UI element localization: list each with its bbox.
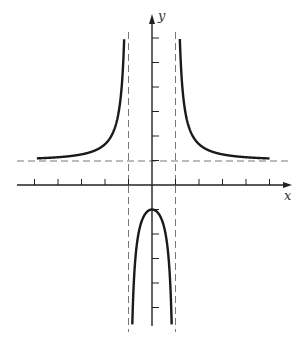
x-axis-label: x [284, 188, 291, 203]
curves [37, 39, 270, 324]
y-axis-label: y [158, 8, 165, 23]
axes [17, 14, 292, 326]
y-axis-arrow-icon [149, 14, 155, 24]
left-upper-branch [37, 39, 124, 158]
right-upper-branch [180, 39, 270, 158]
function-graph [0, 0, 298, 347]
